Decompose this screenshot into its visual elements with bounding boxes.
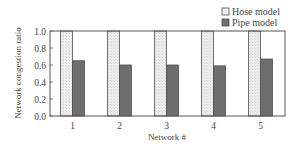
y-tick-label: 0.2 xyxy=(34,95,46,105)
y-tick-label: 0.8 xyxy=(34,44,46,54)
y-tick-label: 0.4 xyxy=(34,78,46,88)
y-tick-label: 1.0 xyxy=(34,27,46,37)
y-tick-label: 0.6 xyxy=(34,61,46,71)
legend-swatch-hose-model xyxy=(222,8,229,15)
bar-hose-model-network-3 xyxy=(155,31,167,116)
x-tick-label: 5 xyxy=(258,121,263,131)
bar-chart: Hose modelPipe model 0.00.20.40.60.81.0 … xyxy=(0,0,301,148)
y-axis-label: Network congestion ratio xyxy=(13,27,23,119)
x-tick-label: 2 xyxy=(117,121,122,131)
x-tick-label: 1 xyxy=(70,121,75,131)
y-tick-label: 0.0 xyxy=(34,112,46,122)
x-tick-label: 3 xyxy=(164,121,169,131)
legend-label: Hose model xyxy=(232,6,280,17)
x-axis-label: Network # xyxy=(148,132,187,142)
bar-hose-model-network-1 xyxy=(61,31,73,116)
legend: Hose modelPipe model xyxy=(222,6,280,28)
bar-hose-model-network-5 xyxy=(249,31,261,116)
bar-pipe-model-network-2 xyxy=(120,65,132,116)
bar-hose-model-network-4 xyxy=(202,31,214,116)
bar-pipe-model-network-4 xyxy=(214,66,226,116)
bar-pipe-model-network-5 xyxy=(261,59,273,116)
bars-group xyxy=(61,31,273,116)
bar-pipe-model-network-3 xyxy=(167,65,179,116)
x-tick-label: 4 xyxy=(211,121,216,131)
x-axis-ticks: 12345 xyxy=(70,121,263,131)
bar-hose-model-network-2 xyxy=(108,31,120,116)
bar-pipe-model-network-1 xyxy=(73,61,85,116)
legend-label: Pipe model xyxy=(232,17,277,28)
legend-swatch-pipe-model xyxy=(222,19,229,26)
